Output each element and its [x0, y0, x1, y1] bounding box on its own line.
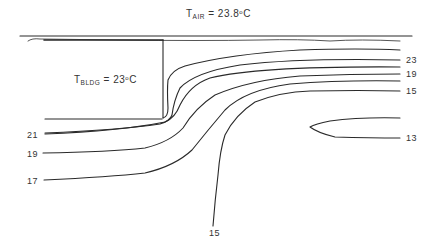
isotherm-label-21: 21 [27, 131, 38, 140]
isotherm-label-13: 13 [406, 134, 417, 143]
isotherm-diagram: TAIR = 23.8oC TBLDG = 23oC 23 19 15 13 2… [0, 0, 435, 248]
bldg-temp-subscript: BLDG [81, 79, 101, 86]
air-temp-symbol: T [186, 8, 193, 19]
air-temperature-label: TAIR = 23.8oC [186, 9, 251, 21]
air-temp-unit: C [243, 8, 251, 19]
isotherm-label-15-right: 15 [406, 87, 417, 96]
bldg-temp-unit: C [129, 74, 137, 85]
building-temperature-label: TBLDG = 23oC [74, 75, 137, 87]
isotherm-15 [213, 91, 400, 227]
contour-plot [0, 0, 435, 248]
isotherm-label-17: 17 [27, 177, 38, 186]
isotherm-label-23: 23 [406, 56, 417, 65]
air-temp-subscript: AIR [193, 13, 205, 20]
isotherm-23 [45, 60, 400, 133]
isotherm-label-19-left: 19 [27, 150, 38, 159]
isotherm-label-15-bottom: 15 [209, 229, 220, 238]
bldg-temp-value: = 23 [104, 74, 126, 85]
isotherm-13 [310, 118, 400, 138]
bldg-temp-symbol: T [74, 74, 81, 85]
air-temp-value: = 23.8 [208, 8, 239, 19]
isotherm-label-19-right: 19 [406, 70, 417, 79]
